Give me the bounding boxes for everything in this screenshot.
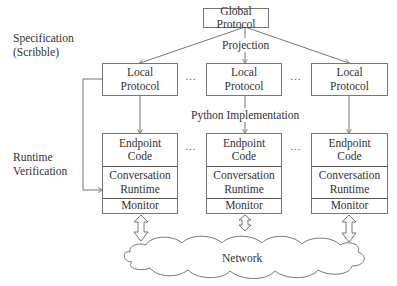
- ellipsis: …: [290, 140, 302, 152]
- local-protocol-box-1: Local Protocol: [102, 63, 178, 96]
- conversation-runtime-cell: Conversation Runtime: [103, 166, 177, 198]
- endpoint-code-label: Endpoint: [223, 137, 265, 151]
- endpoint-code-label: Code: [232, 150, 256, 164]
- local-protocol-box-3: Local Protocol: [311, 63, 388, 96]
- ellipsis: …: [185, 140, 197, 152]
- endpoint-stack-3: Endpoint Code Conversation Runtime Monit…: [311, 133, 388, 214]
- endpoint-stack-1: Endpoint Code Conversation Runtime Monit…: [102, 133, 178, 214]
- endpoint-code-cell: Endpoint Code: [103, 134, 177, 166]
- runtime-verification-label: Runtime Verification: [13, 150, 67, 178]
- specification-label: Specification (Scribble): [13, 31, 74, 59]
- endpoint-code-label: Code: [128, 150, 152, 164]
- conversation-runtime-cell: Conversation Runtime: [207, 166, 281, 198]
- local-to-runtime-arrow: [83, 79, 102, 190]
- local-protocol-label: Local: [336, 66, 362, 80]
- monitor-cell: Monitor: [103, 198, 177, 213]
- conversation-runtime-label: Runtime: [224, 183, 264, 197]
- local-protocol-label: Protocol: [330, 80, 369, 94]
- endpoint-code-label: Endpoint: [328, 137, 370, 151]
- ellipsis: …: [290, 70, 302, 82]
- local-protocol-label: Protocol: [225, 80, 264, 94]
- runtime-label-line2: Verification: [13, 164, 67, 178]
- network-label: Network: [222, 251, 262, 265]
- global-protocol-box: Global Protocol: [203, 8, 269, 28]
- conversation-runtime-label: Conversation: [213, 169, 274, 183]
- local-protocol-label: Protocol: [121, 80, 160, 94]
- runtime-label-line1: Runtime: [13, 150, 67, 164]
- specification-label-line1: Specification: [13, 31, 74, 45]
- ellipsis: …: [185, 70, 197, 82]
- monitor-cell: Monitor: [312, 198, 387, 213]
- local-protocol-label: Local: [127, 66, 153, 80]
- monitor-label: Monitor: [331, 199, 369, 213]
- conversation-runtime-label: Runtime: [330, 183, 370, 197]
- monitor-cell: Monitor: [207, 198, 281, 213]
- endpoint-code-label: Code: [337, 150, 361, 164]
- local-protocol-box-2: Local Protocol: [206, 63, 282, 96]
- endpoint-code-label: Endpoint: [119, 137, 161, 151]
- projection-label: Projection: [221, 38, 270, 52]
- conversation-runtime-cell: Conversation Runtime: [312, 166, 387, 198]
- endpoint-code-cell: Endpoint Code: [207, 134, 281, 166]
- endpoint-code-cell: Endpoint Code: [312, 134, 387, 166]
- endpoint-stack-2: Endpoint Code Conversation Runtime Monit…: [206, 133, 282, 214]
- local-protocol-label: Local: [231, 66, 257, 80]
- conversation-runtime-label: Conversation: [109, 169, 170, 183]
- global-protocol-label: Global Protocol: [204, 5, 268, 32]
- conversation-runtime-label: Conversation: [319, 169, 380, 183]
- specification-label-line2: (Scribble): [13, 45, 74, 59]
- conversation-runtime-label: Runtime: [120, 183, 160, 197]
- implementation-label: Python Implementation: [190, 108, 300, 122]
- monitor-label: Monitor: [121, 199, 159, 213]
- monitor-label: Monitor: [225, 199, 263, 213]
